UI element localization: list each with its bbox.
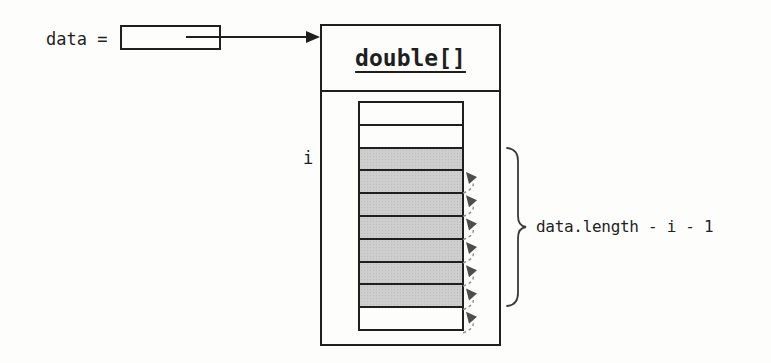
diagram-canvas: data = double[] i data.length - i - 1 xyxy=(0,0,771,363)
array-cell-9 xyxy=(360,306,462,329)
brace-path xyxy=(507,148,526,306)
type-label: double[] xyxy=(355,45,466,71)
array-cell-6 xyxy=(360,238,462,261)
move-arrows-group xyxy=(458,140,494,340)
move-arrowhead-icon xyxy=(466,265,477,277)
object-header: double[] xyxy=(322,26,499,92)
array-cell-4 xyxy=(360,192,462,215)
move-arrowhead-icon xyxy=(466,219,477,231)
array-cell-2 xyxy=(360,147,462,170)
move-arrowhead-icon xyxy=(466,312,477,324)
array-box xyxy=(358,101,464,331)
brace-icon xyxy=(500,139,530,315)
pointer-arrowhead-icon xyxy=(306,31,320,43)
reference-label: data = xyxy=(46,28,107,50)
move-arrowhead-icon xyxy=(466,195,477,207)
move-arrowhead-icon xyxy=(466,289,477,301)
index-label: i xyxy=(299,147,317,169)
array-cell-3 xyxy=(360,169,462,192)
brace-label: data.length - i - 1 xyxy=(536,217,713,237)
array-cell-5 xyxy=(360,215,462,238)
array-cell-0 xyxy=(360,103,462,124)
move-arrowhead-icon xyxy=(466,172,477,184)
array-cell-8 xyxy=(360,283,462,306)
array-cell-1 xyxy=(360,124,462,147)
move-arrowhead-icon xyxy=(466,242,477,254)
pointer-line xyxy=(186,36,308,38)
array-cell-7 xyxy=(360,261,462,284)
